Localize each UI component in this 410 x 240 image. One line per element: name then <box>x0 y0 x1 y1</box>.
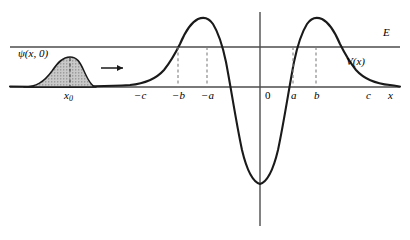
potential-label: V(x) <box>346 56 365 67</box>
potential-diagram-canvas <box>0 0 410 240</box>
tick-label-neg-c: −c <box>134 90 146 101</box>
energy-level-label: E <box>383 27 390 38</box>
tick-label-neg-a: −a <box>201 90 214 101</box>
tick-label-neg-b: −b <box>172 90 185 101</box>
packet-center-subscript: 0 <box>69 94 73 103</box>
packet-center-label: x0 <box>64 90 73 103</box>
wavefunction-label: ψ(x, 0) <box>18 48 48 59</box>
direction-arrow-icon <box>101 65 123 71</box>
axis-label-x: x <box>388 90 393 101</box>
tick-label-pos-c: c <box>366 90 371 101</box>
tick-label-origin: 0 <box>265 90 271 101</box>
physics-figure: E V(x) ψ(x, 0) x0 −c −b −a 0 a b c x <box>0 0 410 240</box>
tick-label-pos-b: b <box>314 90 320 101</box>
tick-label-pos-a: a <box>291 90 297 101</box>
wave-packet-shape <box>24 57 96 87</box>
